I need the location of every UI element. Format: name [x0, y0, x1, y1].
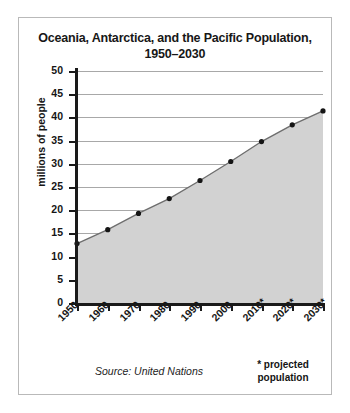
chart-title: Oceania, Antarctica, and the Pacific Pop…: [25, 30, 325, 62]
y-axis-label: 30: [29, 157, 63, 169]
y-axis-label: 5: [29, 273, 63, 285]
y-axis-tick: [69, 280, 78, 282]
y-axis-label: 20: [29, 203, 63, 215]
y-axis-label: 25: [29, 180, 63, 192]
y-axis-tick: [69, 233, 78, 235]
y-axis-tick: [69, 257, 78, 259]
data-point: [290, 122, 295, 127]
series-fill: [77, 111, 323, 303]
y-axis-tick: [69, 71, 78, 73]
area-series: [77, 71, 323, 303]
y-axis-tick: [69, 141, 78, 143]
y-axis-tick: [69, 117, 78, 119]
data-point: [167, 196, 172, 201]
data-point: [197, 178, 202, 183]
plot-area: [77, 71, 323, 303]
data-point: [105, 227, 110, 232]
projected-note-line-2: population: [257, 372, 308, 383]
data-point: [320, 108, 325, 113]
projected-population-note: * projected population: [241, 359, 325, 384]
data-point: [228, 159, 233, 164]
y-axis-tick: [69, 94, 78, 96]
y-axis-label: 35: [29, 134, 63, 146]
chart-figure: Oceania, Antarctica, and the Pacific Pop…: [18, 17, 332, 395]
chart-title-line-1: Oceania, Antarctica, and the Pacific Pop…: [38, 31, 311, 45]
y-axis-label: 45: [29, 87, 63, 99]
y-axis-tick: [69, 210, 78, 212]
source-note: Source: United Nations: [59, 365, 239, 377]
y-axis-label: 15: [29, 226, 63, 238]
y-axis-label: 50: [29, 64, 63, 76]
chart-title-line-2: 1950–2030: [25, 46, 325, 62]
y-axis-tick: [69, 187, 78, 189]
y-axis-label: 10: [29, 250, 63, 262]
data-point: [136, 211, 141, 216]
y-axis-label: 40: [29, 110, 63, 122]
y-axis-label: 0: [29, 296, 63, 308]
projected-note-line-1: * projected: [257, 359, 309, 370]
data-point: [259, 139, 264, 144]
y-axis-tick: [69, 164, 78, 166]
